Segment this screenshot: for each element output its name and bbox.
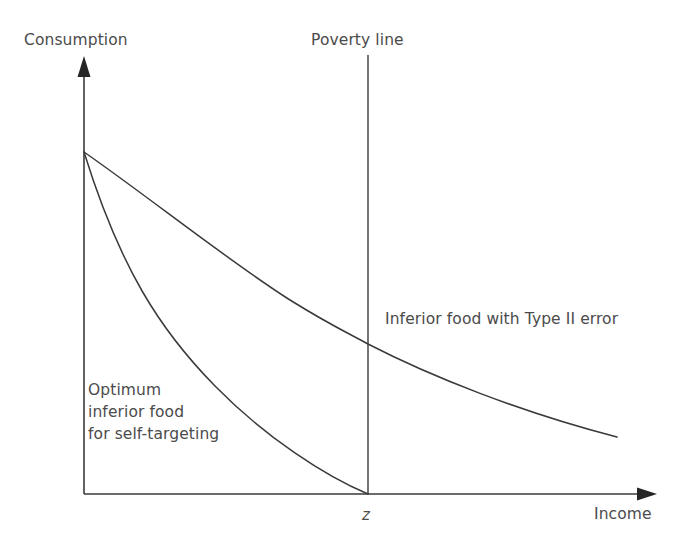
optimum-label-line-3: for self-targeting <box>88 425 219 443</box>
type-2-error-label: Inferior food with Type II error <box>385 308 618 330</box>
x-axis-tick-label-z: z <box>362 504 370 526</box>
x-axis-arrowhead <box>637 488 657 501</box>
optimum-label-line-1: Optimum <box>88 381 161 399</box>
y-axis-label: Consumption <box>24 29 128 51</box>
figure-canvas: Consumption Poverty line Income z Inferi… <box>0 0 692 549</box>
diagram-svg <box>0 0 692 549</box>
y-axis-arrowhead <box>78 56 91 77</box>
poverty-line-label: Poverty line <box>311 29 404 51</box>
optimum-label-line-2: inferior food <box>88 403 184 421</box>
x-axis-label: Income <box>594 503 652 525</box>
optimum-inferior-food-label: Optimuminferior foodfor self-targeting <box>88 379 219 445</box>
